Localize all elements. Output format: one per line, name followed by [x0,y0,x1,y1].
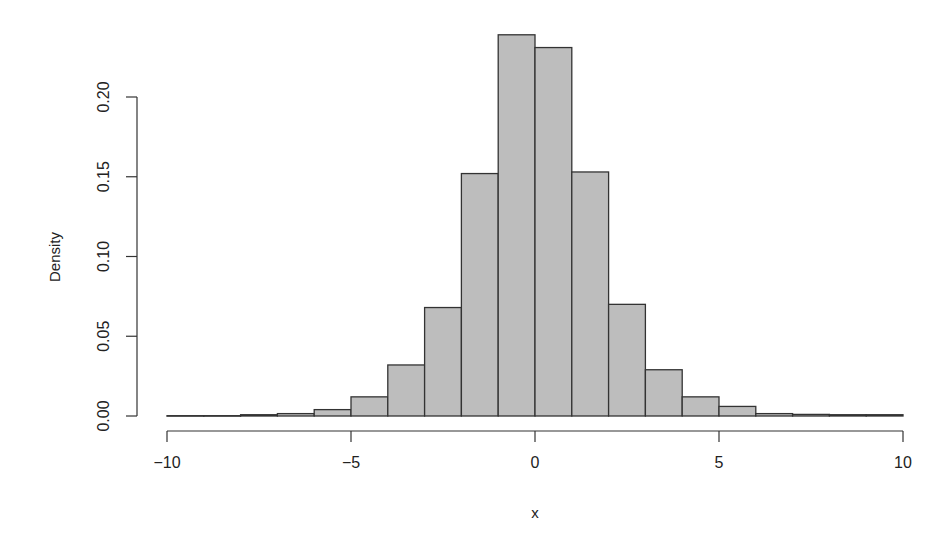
histogram-bar [498,35,535,416]
histogram-bar [535,48,572,416]
x-tick-label: −10 [153,454,180,471]
x-tick-label: 0 [531,454,540,471]
histogram-bar [756,414,793,416]
y-axis: 0.000.050.100.150.20 [95,81,137,431]
x-tick-label: 10 [894,454,912,471]
x-tick-label: 5 [715,454,724,471]
histogram-bar [793,414,830,416]
x-axis-title: x [531,504,539,521]
histogram-bar [572,172,609,416]
histogram-bar [866,415,903,416]
histogram-bar [682,397,719,416]
y-tick-label: 0.10 [95,241,112,272]
y-tick-label: 0.15 [95,161,112,192]
histogram-bars [167,35,903,416]
histogram-bar [719,406,756,416]
histogram-bar [388,365,425,416]
histogram-bar [204,416,241,417]
histogram-bar [425,308,462,416]
histogram-bar [461,174,498,416]
y-tick-label: 0.20 [95,81,112,112]
histogram-bar [277,414,314,416]
y-tick-label: 0.00 [95,400,112,431]
histogram-chart: 0.000.050.100.150.20 −10−50510 Density x [0,0,949,549]
histogram-bar [314,410,351,416]
histogram-bar [645,370,682,416]
histogram-bar [351,397,388,416]
x-tick-label: −5 [342,454,360,471]
histogram-bar [167,416,204,417]
y-axis-title: Density [46,231,63,282]
y-tick-label: 0.05 [95,321,112,352]
histogram-bar [241,415,278,416]
histogram-bar [829,415,866,416]
x-axis: −10−50510 [153,431,912,471]
histogram-bar [609,304,646,416]
